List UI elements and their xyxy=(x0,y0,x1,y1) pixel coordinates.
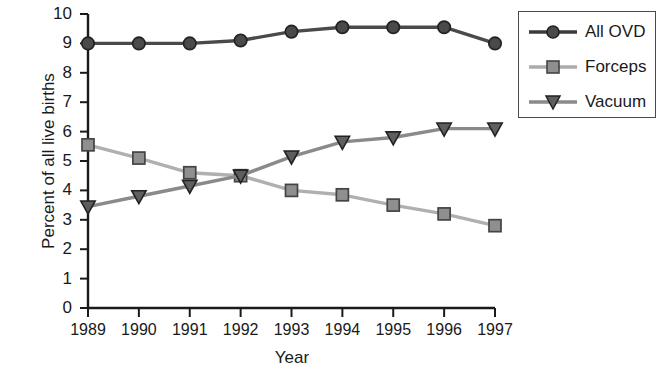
data-point-all-ovd-1997 xyxy=(489,37,501,49)
data-point-all-ovd-1995 xyxy=(387,21,399,33)
legend-item-forceps: Forceps xyxy=(527,54,646,80)
legend-label-vacuum: Vacuum xyxy=(585,92,646,112)
data-point-forceps-1997 xyxy=(489,220,501,232)
legend-swatch-forceps xyxy=(527,56,579,78)
legend-label-forceps: Forceps xyxy=(585,57,646,77)
legend-swatch-vacuum xyxy=(527,91,579,113)
data-point-forceps-1994 xyxy=(336,189,348,201)
series-vacuum xyxy=(81,123,502,214)
data-point-all-ovd-1989 xyxy=(82,37,94,49)
data-point-forceps-1995 xyxy=(387,199,399,211)
data-point-vacuum-1989 xyxy=(81,201,95,214)
legend-swatch-all-ovd xyxy=(527,21,579,43)
data-point-all-ovd-1996 xyxy=(438,21,450,33)
legend-label-all-ovd: All OVD xyxy=(585,22,645,42)
data-point-forceps-1993 xyxy=(286,184,298,196)
data-point-all-ovd-1992 xyxy=(234,34,246,46)
data-point-forceps-1990 xyxy=(133,152,145,164)
series-all-ovd xyxy=(82,21,501,50)
legend-item-vacuum: Vacuum xyxy=(527,89,646,115)
data-point-all-ovd-1990 xyxy=(133,37,145,49)
data-point-all-ovd-1994 xyxy=(336,21,348,33)
data-point-all-ovd-1991 xyxy=(184,37,196,49)
chart-legend: All OVD Forceps Vacuum xyxy=(518,11,656,118)
data-series xyxy=(81,21,502,232)
data-point-forceps-1996 xyxy=(438,208,450,220)
data-point-forceps-1991 xyxy=(184,167,196,179)
data-point-forceps-1989 xyxy=(82,139,94,151)
axes xyxy=(80,14,495,317)
legend-item-all-ovd: All OVD xyxy=(527,19,645,45)
data-point-all-ovd-1993 xyxy=(285,25,297,37)
